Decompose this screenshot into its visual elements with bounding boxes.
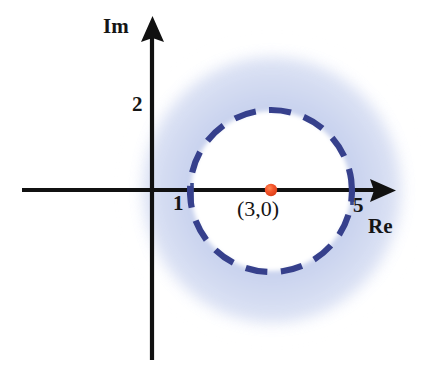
figure-canvas xyxy=(0,0,421,375)
center-point-label: (3,0) xyxy=(237,198,279,220)
center-point-marker xyxy=(265,184,277,196)
tick-label-5: 5 xyxy=(353,195,364,216)
tick-label-1: 1 xyxy=(173,193,184,214)
real-axis-label: Re xyxy=(368,216,393,237)
tick-label-2: 2 xyxy=(132,94,143,115)
imaginary-axis-label: Im xyxy=(103,16,129,37)
complex-plane-figure: Im Re 2 1 5 (3,0) xyxy=(0,0,421,375)
